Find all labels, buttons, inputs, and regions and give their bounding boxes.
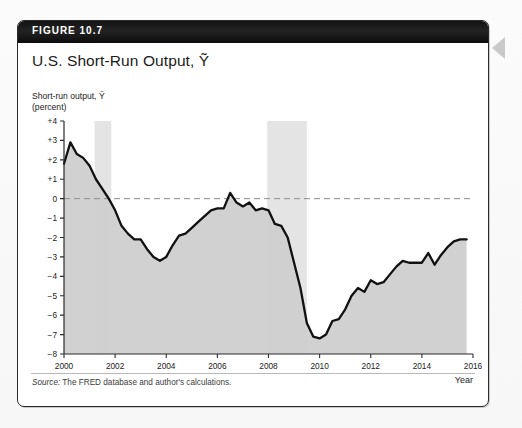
x-tick-label: 2000 <box>55 361 74 371</box>
x-tick-label: 2004 <box>157 361 176 371</box>
x-axis-label: Year <box>455 375 473 385</box>
y-tick-label: −3 <box>48 252 58 262</box>
y-tick-label: −8 <box>48 349 58 359</box>
x-tick-label: 2012 <box>362 361 381 371</box>
y-tick-label: −4 <box>48 271 58 281</box>
line-chart: +4+3+2+10−1−2−3−4−5−6−7−8200020022004200… <box>18 21 488 406</box>
source-note: Source: The FRED database and author's c… <box>32 378 231 387</box>
margin-arrow-icon <box>492 37 505 59</box>
source-body: The FRED database and author's calculati… <box>60 378 231 387</box>
y-tick-label: −1 <box>48 213 58 223</box>
source-label: Source: <box>32 378 60 387</box>
plot-area: +4+3+2+10−1−2−3−4−5−6−7−8200020022004200… <box>18 21 488 406</box>
figure-screenshot: FIGURE 10.7 U.S. Short-Run Output, Ỹ Sho… <box>0 0 522 428</box>
y-tick-label: −5 <box>48 291 58 301</box>
y-tick-label: −2 <box>48 233 58 243</box>
x-tick-label: 2014 <box>413 361 432 371</box>
source-divider <box>31 373 475 374</box>
y-tick-label: +1 <box>48 174 58 184</box>
x-tick-label: 2006 <box>208 361 227 371</box>
y-tick-label: +4 <box>48 116 58 126</box>
y-tick-label: +2 <box>48 155 58 165</box>
x-tick-label: 2002 <box>106 361 125 371</box>
y-tick-label: 0 <box>52 194 57 204</box>
figure-card: FIGURE 10.7 U.S. Short-Run Output, Ỹ Sho… <box>17 20 489 407</box>
y-tick-label: +3 <box>48 135 58 145</box>
y-tick-label: −6 <box>48 310 58 320</box>
x-tick-label: 2010 <box>310 361 329 371</box>
x-tick-label: 2008 <box>259 361 278 371</box>
y-tick-label: −7 <box>48 330 58 340</box>
x-tick-label: 2016 <box>464 361 483 371</box>
